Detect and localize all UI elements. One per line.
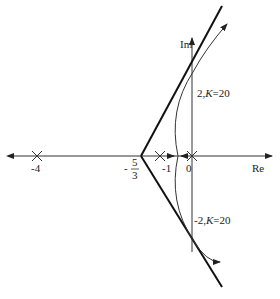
svg-text:-: - — [124, 162, 128, 174]
real-axis: Re — [6, 153, 272, 174]
centroid-label: - 5 3 — [124, 156, 139, 181]
locus-branches — [168, 24, 227, 262]
crossing-label-lower: -2,K=20 — [194, 214, 231, 226]
crossing-label-upper: 2,K=20 — [197, 87, 230, 99]
svg-text:5: 5 — [132, 156, 138, 168]
tick-label-0: 0 — [186, 162, 192, 174]
root-locus-diagram: Re Im -4 -1 0 - 5 3 2,K=20 -2,K=20 — [0, 0, 280, 299]
tick-label-minus-1: -1 — [162, 162, 171, 174]
svg-text:3: 3 — [132, 169, 138, 181]
imag-axis-label: Im — [180, 38, 193, 50]
real-axis-label: Re — [252, 162, 264, 174]
tick-label-minus-4: -4 — [31, 162, 41, 174]
